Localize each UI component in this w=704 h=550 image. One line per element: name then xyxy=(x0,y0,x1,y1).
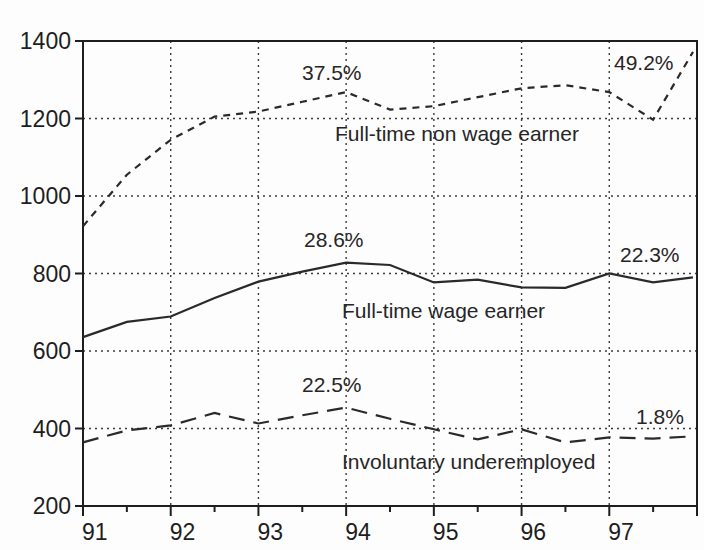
x-tick-label: 97 xyxy=(608,519,634,545)
y-tick-label: 400 xyxy=(33,416,71,442)
series-label-wage: Full-time wage earner xyxy=(342,299,545,322)
x-axis-labels: 91929394959697 xyxy=(82,519,634,545)
annotation-wage-97: 22.3% xyxy=(620,243,680,266)
annotation-underemployed-97: 1.8% xyxy=(636,405,684,428)
y-tick-label: 600 xyxy=(33,338,71,364)
series-label-non-wage: Full-time non wage earner xyxy=(335,122,579,145)
annotation-underemployed-94: 22.5% xyxy=(302,373,362,396)
annotation-non-wage-97: 49.2% xyxy=(614,51,674,74)
x-tick-label: 92 xyxy=(170,519,196,545)
annotation-non-wage-94: 37.5% xyxy=(302,61,362,84)
y-tick-label: 1200 xyxy=(20,106,71,132)
x-tick-label: 93 xyxy=(257,519,283,545)
y-tick-label: 200 xyxy=(33,493,71,519)
x-tick-label: 95 xyxy=(433,519,459,545)
series-line-involuntary-underemployed xyxy=(83,408,693,443)
y-tick-label: 1400 xyxy=(20,28,71,54)
x-tick-label: 96 xyxy=(521,519,547,545)
annotation-wage-94: 28.6% xyxy=(304,228,364,251)
y-axis-labels: 140012001000800600400200 xyxy=(20,28,71,519)
x-tick-label: 91 xyxy=(82,519,108,545)
line-chart: 140012001000800600400200 91929394959697 … xyxy=(0,0,704,550)
y-tick-label: 1000 xyxy=(20,183,71,209)
x-axis-ticks xyxy=(83,506,697,516)
horizontal-gridlines xyxy=(83,119,697,429)
series-label-underemployed: Involuntary underemployed xyxy=(342,450,595,473)
chart-canvas: 140012001000800600400200 91929394959697 … xyxy=(0,0,704,550)
x-tick-label: 94 xyxy=(345,519,371,545)
y-axis-ticks xyxy=(75,41,83,506)
y-tick-label: 800 xyxy=(33,261,71,287)
